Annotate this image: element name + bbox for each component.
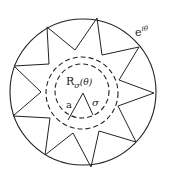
boundary-label: eiθ	[135, 27, 148, 38]
boundary-exponent: iθ	[142, 25, 148, 33]
boundary-base: e	[135, 26, 142, 39]
region-subscript: σ	[74, 81, 79, 90]
label-sigma: σ	[92, 98, 99, 108]
label-a: a	[66, 100, 72, 110]
region-arg: (θ)	[80, 77, 92, 87]
region-label: Rσ(θ)	[66, 76, 92, 87]
dashed-circle-inner	[55, 64, 109, 118]
